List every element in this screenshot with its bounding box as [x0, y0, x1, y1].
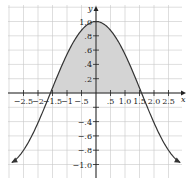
- y-tick-label: .6: [84, 46, 92, 55]
- x-tick-label: −2.5: [14, 97, 33, 106]
- x-tick-label: .5: [107, 97, 115, 106]
- x-tick-label: 2.5: [162, 97, 175, 106]
- cosine-area-chart: −2.5−2−1.5−1−.5.51.01.52.02.5 1.0.8.6.4.…: [0, 0, 189, 183]
- y-tick-label: −1.0: [73, 161, 92, 170]
- x-tick-label: 1.0: [119, 97, 132, 106]
- y-tick-label: −.8: [78, 146, 92, 155]
- y-tick-label: .2: [84, 75, 92, 84]
- y-tick-label: −.4: [78, 118, 92, 127]
- y-tick-label: 1.0: [79, 18, 92, 27]
- x-tick-label: 2.0: [148, 97, 161, 106]
- y-axis-arrow-icon: [94, 6, 99, 11]
- y-tick-label: .8: [84, 32, 92, 41]
- x-tick-label: −1: [61, 97, 73, 106]
- y-tick-label: −.6: [78, 132, 92, 141]
- x-tick-labels: −2.5−2−1.5−1−.5.51.01.52.02.5: [14, 97, 175, 106]
- x-axis-label: x: [181, 95, 186, 104]
- y-tick-label: .4: [84, 60, 92, 69]
- x-tick-label: −.5: [74, 97, 88, 106]
- y-axis-label: y: [87, 4, 93, 13]
